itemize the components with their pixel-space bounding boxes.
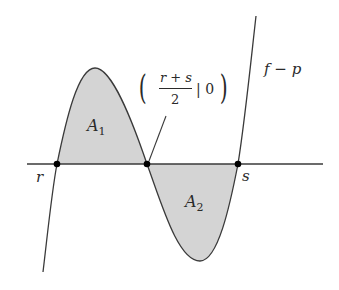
fraction-denominator: 2 (171, 92, 179, 107)
graph-svg (0, 0, 339, 290)
fraction-numerator: r + s (160, 70, 192, 85)
point-r (54, 161, 61, 168)
right-paren: ) (220, 70, 228, 104)
annotation-value: | 0 (196, 81, 214, 97)
annotation-leader-line (149, 116, 166, 161)
area-a1-fill (57, 68, 147, 164)
label-s: s (242, 169, 250, 184)
point-s (235, 161, 242, 168)
left-paren: ( (139, 70, 147, 104)
point-midpoint (144, 161, 151, 168)
diagram-canvas: A1 A2 r s f − p ( r + s 2 | 0 ) (0, 0, 339, 290)
area-a2-label: A2 (185, 194, 204, 210)
label-r: r (36, 170, 43, 185)
area-a2-fill (147, 164, 238, 261)
fraction-bar (159, 88, 192, 89)
area-a1-label: A1 (87, 118, 106, 134)
midpoint-annotation: ( r + s 2 | 0 ) (138, 68, 238, 112)
curve-label: f − p (264, 62, 301, 77)
